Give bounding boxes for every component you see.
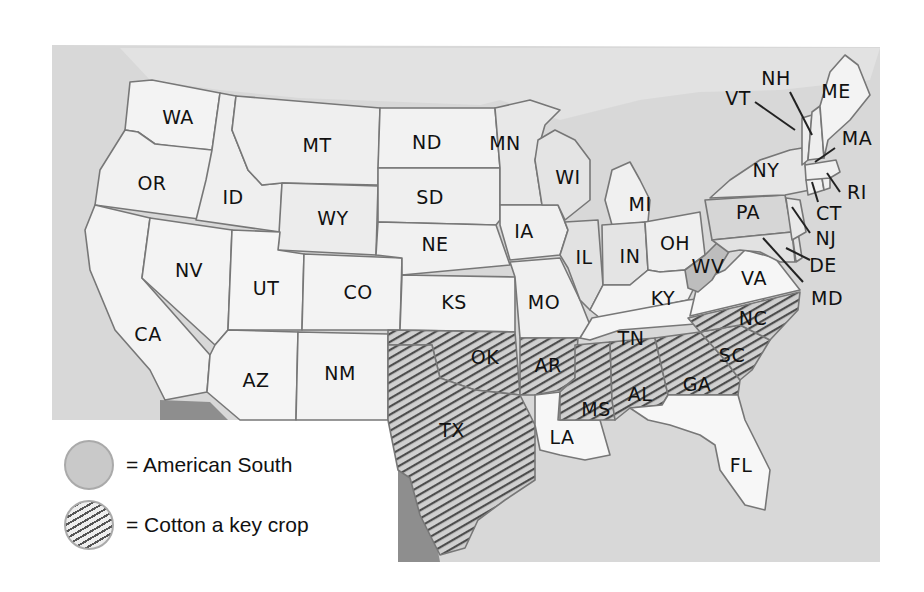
label-MA: MA	[842, 129, 872, 148]
label-AR: AR	[534, 356, 561, 375]
label-NM: NM	[324, 364, 356, 383]
label-AL: AL	[628, 385, 653, 404]
label-ND: ND	[412, 133, 442, 152]
label-MI: MI	[629, 195, 652, 214]
label-MD: MD	[811, 289, 843, 308]
legend-label: = Cotton a key crop	[126, 513, 309, 537]
label-ID: ID	[222, 188, 243, 207]
label-NC: NC	[739, 309, 767, 328]
hatched-swatch-icon	[64, 500, 114, 550]
label-WA: WA	[162, 108, 194, 127]
label-IL: IL	[575, 248, 592, 267]
label-CA: CA	[134, 325, 161, 344]
label-SD: SD	[416, 188, 444, 207]
label-DE: DE	[809, 256, 837, 275]
label-SC: SC	[719, 346, 745, 365]
label-NJ: NJ	[816, 229, 837, 248]
legend-item-cotton: = Cotton a key crop	[64, 500, 309, 550]
label-PA: PA	[736, 203, 760, 222]
label-OK: OK	[471, 348, 499, 367]
label-MS: MS	[581, 400, 610, 419]
label-NE: NE	[421, 235, 448, 254]
label-LA: LA	[549, 428, 574, 447]
label-TX: TX	[439, 421, 465, 440]
label-CO: CO	[343, 283, 372, 302]
label-MT: MT	[303, 136, 332, 155]
label-GA: GA	[683, 375, 712, 394]
label-NH: NH	[761, 69, 791, 88]
label-FL: FL	[730, 456, 753, 475]
label-OH: OH	[660, 234, 690, 253]
solid-gray-swatch-icon	[64, 440, 114, 490]
label-WI: WI	[555, 168, 580, 187]
label-IN: IN	[620, 247, 641, 266]
label-ME: ME	[821, 82, 850, 101]
label-KY: KY	[651, 289, 675, 308]
label-CT: CT	[816, 204, 842, 223]
legend-label: = American South	[126, 453, 292, 477]
label-WY: WY	[317, 209, 348, 228]
label-VT: VT	[725, 89, 751, 108]
state-RI	[822, 178, 830, 190]
label-NY: NY	[753, 161, 780, 180]
label-KS: KS	[441, 293, 467, 312]
legend-item-american-south: = American South	[64, 440, 292, 490]
label-TN: TN	[618, 329, 645, 348]
label-RI: RI	[847, 183, 867, 202]
state-IA	[500, 205, 568, 260]
label-VA: VA	[741, 269, 767, 288]
label-WV: WV	[692, 257, 725, 276]
label-MO: MO	[528, 293, 560, 312]
label-AZ: AZ	[242, 371, 269, 390]
label-NV: NV	[175, 261, 203, 280]
label-MN: MN	[489, 134, 521, 153]
label-IA: IA	[514, 222, 534, 241]
label-UT: UT	[253, 279, 280, 298]
map-legend: = American South = Cotton a key crop	[58, 428, 388, 556]
label-OR: OR	[137, 174, 166, 193]
